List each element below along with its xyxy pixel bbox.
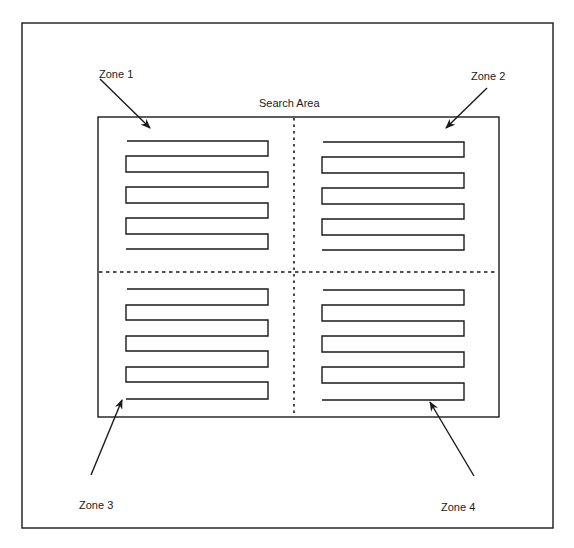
search-area-box: [98, 117, 499, 417]
zone-3-label: Zone 3: [79, 499, 113, 511]
search-area-diagram: [0, 0, 574, 548]
zone-2-search-pattern: [322, 142, 464, 250]
zone-3-search-pattern: [126, 289, 268, 399]
zone-2-arrow-icon: [446, 88, 487, 128]
zone-1-label: Zone 1: [99, 68, 133, 80]
zone-4-arrow-icon: [430, 402, 474, 476]
zone-4-search-pattern: [322, 290, 464, 400]
zone-1-search-pattern: [126, 141, 268, 249]
zone-1-arrow-icon: [100, 79, 150, 128]
zone-4-label: Zone 4: [441, 501, 475, 513]
search-area-title: Search Area: [259, 97, 320, 109]
zone-3-arrow-icon: [91, 400, 122, 475]
zone-2-label: Zone 2: [471, 70, 505, 82]
